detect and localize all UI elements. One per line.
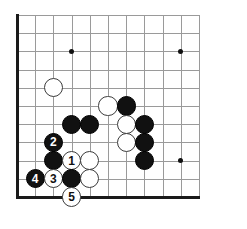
black-stone-g[interactable]: [135, 151, 154, 170]
black-stone-d[interactable]: [135, 115, 154, 134]
stone-move-number: 1: [68, 155, 75, 167]
white-stone-move-3[interactable]: 3: [44, 169, 63, 188]
black-stone-b[interactable]: [62, 115, 81, 134]
go-board-diagram: 21435: [0, 0, 247, 229]
black-stone-move-2[interactable]: 2: [44, 133, 63, 152]
white-stone-e[interactable]: [80, 151, 99, 170]
white-stone-move-5[interactable]: 5: [62, 187, 81, 206]
star-point-upper-left: [69, 49, 74, 54]
black-stone-move-4[interactable]: 4: [26, 169, 45, 188]
white-stone-f[interactable]: [80, 169, 99, 188]
white-stone-d[interactable]: [117, 133, 136, 152]
stone-move-number: 2: [50, 136, 57, 148]
black-stone-c[interactable]: [80, 115, 99, 134]
black-stone-h[interactable]: [62, 169, 81, 188]
star-point-upper-right: [178, 49, 183, 54]
stone-move-number: 4: [32, 173, 39, 185]
black-stone-e[interactable]: [135, 133, 154, 152]
board-edge-bottom: [16, 196, 200, 199]
grid-line-vertical: [199, 15, 200, 197]
white-stone-b[interactable]: [98, 96, 117, 115]
white-stone-c[interactable]: [117, 115, 136, 134]
star-point-lower-right: [178, 158, 183, 163]
board-edge-left: [16, 14, 19, 199]
grid-line-vertical: [181, 15, 182, 197]
black-stone-f[interactable]: [44, 151, 63, 170]
white-stone-a[interactable]: [44, 78, 63, 97]
black-stone-a[interactable]: [117, 96, 136, 115]
grid-line-vertical: [163, 15, 164, 197]
stone-move-number: 5: [68, 191, 75, 203]
stone-move-number: 3: [50, 173, 57, 185]
white-stone-move-1[interactable]: 1: [62, 151, 81, 170]
